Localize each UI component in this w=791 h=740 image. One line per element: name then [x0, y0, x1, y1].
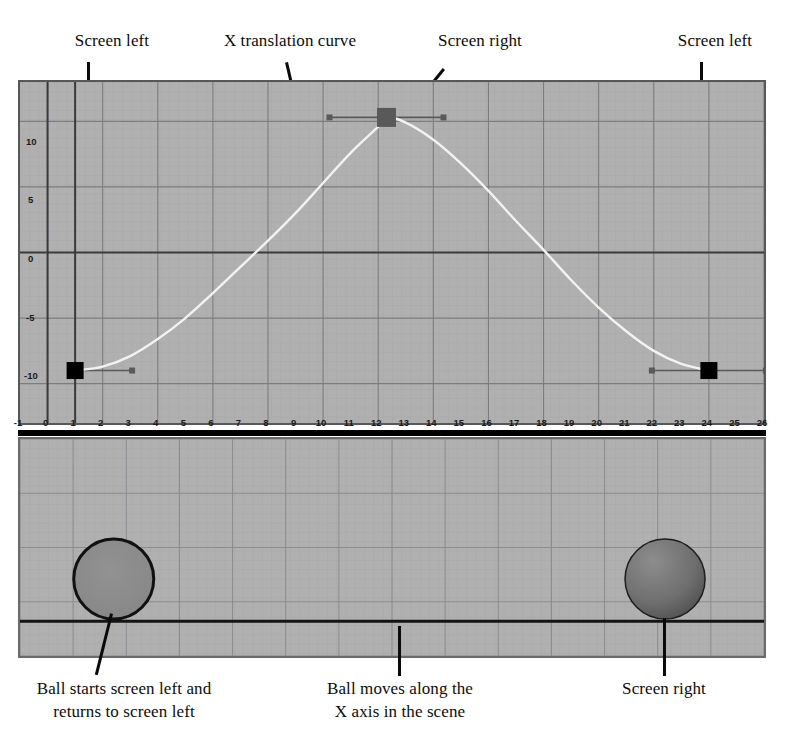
- x-tick-label-16: 16: [481, 417, 492, 428]
- ball-right: [625, 539, 705, 619]
- caption-screen-right-bottom: Screen right: [603, 678, 725, 701]
- x-tick-label-4: 4: [153, 417, 158, 428]
- caption-ball-starts-line2: returns to screen left: [14, 701, 234, 724]
- y-tick-label-neg5: -5: [26, 312, 34, 323]
- caption-screen-left-top-1: Screen left: [52, 30, 172, 53]
- caption-ball-starts: Ball starts screen left and returns to s…: [14, 678, 234, 724]
- curve-editor-graph: [20, 82, 764, 423]
- x-tick-label-13: 13: [398, 417, 409, 428]
- x-tick-label-19: 19: [564, 417, 575, 428]
- scene-graph: [20, 439, 764, 656]
- x-tick-label-15: 15: [454, 417, 465, 428]
- keyframe-marker-0[interactable]: [67, 362, 84, 379]
- y-tick-label-0: 0: [28, 253, 33, 264]
- caption-x-translation-curve: X translation curve: [192, 30, 388, 53]
- keyframe-marker-2[interactable]: [700, 362, 717, 379]
- y-tick-label-5: 5: [28, 194, 33, 205]
- x-tick-label-9: 9: [291, 417, 296, 428]
- x-tick-label-10: 10: [316, 417, 327, 428]
- scene-view-panel[interactable]: [18, 437, 766, 658]
- caption-screen-left-top-2: Screen left: [655, 30, 775, 53]
- x-tick-label-21: 21: [619, 417, 630, 428]
- ball-left: [74, 539, 154, 619]
- timeline-divider-bar: [18, 430, 766, 436]
- x-tick-label-8: 8: [263, 417, 268, 428]
- x-tick-label-18: 18: [536, 417, 547, 428]
- x-tick-label-6: 6: [208, 417, 213, 428]
- x-tick-label-14: 14: [426, 417, 437, 428]
- x-tick-label-23: 23: [674, 417, 685, 428]
- x-tick-label-5: 5: [181, 417, 186, 428]
- caption-screen-right-top: Screen right: [415, 30, 545, 53]
- x-tick-label-20: 20: [591, 417, 602, 428]
- caption-ball-moves: Ball moves along the X axis in the scene: [302, 678, 498, 724]
- y-tick-label-neg10: -10: [24, 370, 38, 381]
- x-tick-label-24: 24: [702, 417, 713, 428]
- x-tick-label-17: 17: [509, 417, 520, 428]
- caption-ball-starts-line1: Ball starts screen left and: [14, 678, 234, 701]
- x-tick-label-2: 2: [98, 417, 103, 428]
- x-tick-label--1: -1: [14, 417, 22, 428]
- caption-ball-moves-line2: X axis in the scene: [302, 701, 498, 724]
- leader-line-ball-moves: [398, 626, 401, 676]
- x-tick-label-22: 22: [646, 417, 657, 428]
- curve-editor-panel[interactable]: [18, 80, 766, 425]
- x-tick-label-26: 26: [757, 417, 768, 428]
- x-tick-label-25: 25: [729, 417, 740, 428]
- x-tick-label-0: 0: [43, 417, 48, 428]
- keyframe-markers: [67, 108, 718, 379]
- x-tick-label-11: 11: [344, 417, 354, 428]
- x-tick-label-7: 7: [236, 417, 241, 428]
- caption-ball-moves-line1: Ball moves along the: [302, 678, 498, 701]
- leader-line-screen-right-bottom: [663, 618, 666, 676]
- keyframe-marker-1[interactable]: [377, 108, 396, 127]
- y-tick-label-10: 10: [26, 136, 37, 147]
- x-tick-label-12: 12: [371, 417, 382, 428]
- x-translation-curve-path: [75, 117, 709, 370]
- x-tick-label-1: 1: [70, 417, 75, 428]
- x-tick-label-3: 3: [126, 417, 131, 428]
